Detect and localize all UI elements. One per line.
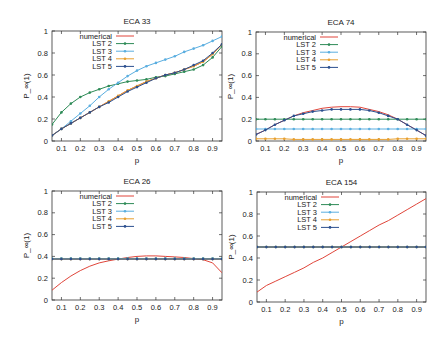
- data-point: [349, 128, 352, 131]
- data-point: [145, 65, 148, 68]
- data-point: [350, 246, 353, 249]
- legend-marker: [329, 226, 332, 229]
- data-point: [107, 101, 110, 104]
- x-tick-label: 0.9: [411, 305, 421, 314]
- y-tick-label: 0.6: [38, 71, 48, 80]
- x-tick-label: 0.2: [279, 144, 289, 153]
- data-point: [155, 258, 158, 261]
- data-point: [202, 44, 205, 47]
- chart-title: ECA 154: [326, 178, 358, 187]
- y-tick-label: 0.4: [242, 93, 252, 102]
- data-point: [359, 138, 362, 141]
- data-point: [378, 138, 381, 141]
- data-point: [397, 246, 400, 249]
- data-point: [255, 133, 258, 136]
- data-point: [164, 58, 167, 61]
- data-point: [107, 85, 110, 88]
- legend: numericalLST 2LST 3LST 4LST 5: [284, 193, 339, 232]
- x-tick-label: 0.2: [75, 144, 85, 153]
- y-tick-label: 0.4: [38, 93, 48, 102]
- x-tick-label: 0.7: [170, 303, 180, 312]
- data-point: [293, 115, 296, 118]
- data-point: [406, 128, 409, 131]
- data-point: [211, 56, 214, 59]
- data-point: [303, 246, 306, 249]
- data-point: [117, 258, 120, 261]
- x-tick-label: 0.6: [151, 144, 161, 153]
- y-tick-label: 0.6: [242, 71, 252, 80]
- data-point: [340, 108, 343, 111]
- y-tick-label: 0.8: [243, 210, 253, 219]
- data-point: [415, 246, 418, 249]
- data-point: [98, 88, 101, 91]
- x-tick-label: 0.8: [393, 305, 403, 314]
- data-point: [183, 68, 186, 71]
- y-tick-label: 0.8: [242, 49, 252, 58]
- data-point: [264, 118, 267, 121]
- y-tick-label: 0: [249, 298, 253, 307]
- data-point: [255, 138, 258, 141]
- data-point: [311, 138, 314, 141]
- x-tick-label: 0.7: [374, 305, 384, 314]
- data-point: [211, 52, 214, 55]
- data-point: [359, 128, 362, 131]
- x-tick-label: 0.5: [336, 144, 346, 153]
- data-point: [406, 138, 409, 141]
- y-tick-label: 0.6: [243, 232, 253, 241]
- data-point: [60, 111, 63, 114]
- legend-marker: [328, 43, 331, 46]
- data-point: [107, 88, 110, 91]
- legend-marker: [328, 66, 331, 69]
- legend-marker: [328, 59, 331, 62]
- data-point: [387, 246, 390, 249]
- figure-panels: ECA 3300.20.40.60.810.10.20.30.40.50.60.…: [0, 0, 442, 338]
- data-point: [349, 138, 352, 141]
- x-tick-label: 0.6: [151, 303, 161, 312]
- data-point: [368, 128, 371, 131]
- data-point: [211, 40, 214, 43]
- x-tick-label: 0.2: [75, 303, 85, 312]
- x-tick-label: 0.5: [132, 303, 142, 312]
- data-point: [274, 128, 277, 131]
- x-tick-label: 0.6: [355, 144, 365, 153]
- y-axis-label: P_∞(1): [227, 234, 236, 260]
- data-point: [340, 128, 343, 131]
- x-tick-label: 0.3: [299, 305, 309, 314]
- legend-marker: [329, 211, 332, 214]
- x-tick-label: 0.4: [113, 144, 123, 153]
- series-line-lst-4: [52, 44, 222, 135]
- legend-marker: [124, 65, 127, 68]
- data-point: [331, 246, 334, 249]
- data-point: [349, 118, 352, 121]
- data-point: [330, 138, 333, 141]
- series-group: [51, 256, 224, 290]
- data-point: [387, 138, 390, 141]
- data-point: [126, 80, 129, 83]
- data-point: [264, 138, 267, 141]
- data-point: [136, 79, 139, 82]
- data-point: [406, 246, 409, 249]
- legend-label: LST 5: [297, 223, 317, 232]
- data-point: [274, 118, 277, 121]
- series-group: [255, 107, 428, 141]
- y-tick-label: 0.2: [38, 115, 48, 124]
- data-point: [221, 35, 224, 38]
- data-point: [155, 62, 158, 65]
- data-point: [425, 138, 428, 141]
- x-axis-label: p: [339, 156, 344, 165]
- legend-marker: [329, 219, 332, 222]
- chart-panel-1: ECA 3300.20.40.60.810.10.20.30.40.50.60.…: [22, 17, 223, 165]
- data-point: [378, 118, 381, 121]
- legend: numericalLST 2LST 3LST 4LST 5: [79, 32, 134, 71]
- data-point: [136, 86, 139, 89]
- data-point: [368, 138, 371, 141]
- x-tick-label: 0.4: [113, 303, 123, 312]
- x-tick-label: 0.1: [56, 303, 66, 312]
- data-point: [79, 117, 82, 120]
- data-point: [221, 43, 224, 46]
- chart-panel-2: ECA 7400.20.40.60.810.10.20.30.40.50.60.…: [226, 18, 427, 165]
- data-point: [340, 246, 343, 249]
- x-tick-label: 0.9: [207, 303, 217, 312]
- legend-label: LST 5: [92, 222, 112, 231]
- x-tick-label: 0.3: [298, 144, 308, 153]
